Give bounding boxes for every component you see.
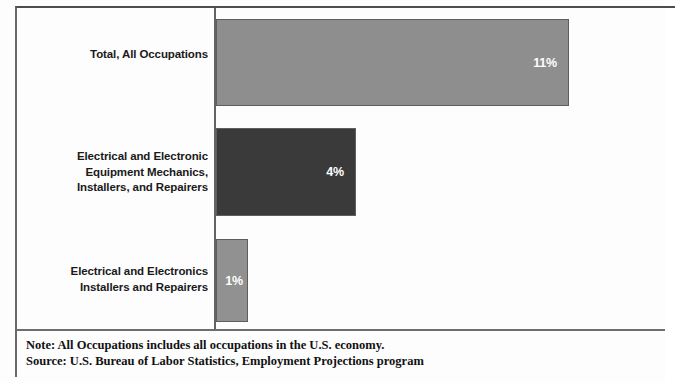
footnote-separator — [17, 329, 665, 331]
bar-rect: 1% — [216, 239, 248, 322]
bar-rect: 4% — [216, 128, 356, 216]
bar-value-label: 1% — [225, 274, 243, 288]
bar-value-label: 4% — [326, 165, 344, 179]
bar-category-label: Electrical and Electronic Equipment Mech… — [18, 149, 208, 196]
bar-rect: 11% — [216, 19, 569, 106]
bar-value-label: 11% — [533, 56, 557, 70]
footnote-block: Note: All Occupations includes all occup… — [26, 337, 646, 369]
bar-row: Total, All Occupations 11% — [17, 19, 665, 106]
bar-row: Electrical and Electronics Installers an… — [17, 239, 665, 322]
footnote-source: Source: U.S. Bureau of Labor Statistics,… — [26, 353, 646, 369]
bar-category-label: Electrical and Electronics Installers an… — [18, 264, 208, 295]
bar-row: Electrical and Electronic Equipment Mech… — [17, 128, 665, 216]
footnote-note: Note: All Occupations includes all occup… — [26, 337, 646, 353]
plot-area: Total, All Occupations 11% Electrical an… — [17, 8, 665, 329]
bar-category-label: Total, All Occupations — [18, 47, 208, 63]
